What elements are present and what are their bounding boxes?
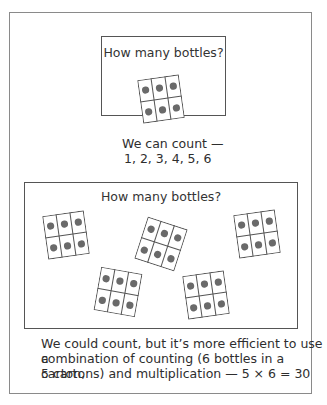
bottom-caption-line3: 5 cartons) and multiplication — 5 × 6 = … <box>41 366 310 381</box>
top-caption-line2: 1, 2, 3, 4, 5, 6 <box>124 151 211 166</box>
carton-top <box>137 74 185 123</box>
top-caption-line1: We can count — <box>122 136 223 151</box>
bottom-question-title: How many bottles? <box>25 189 297 204</box>
carton-1 <box>42 210 90 259</box>
carton-3 <box>233 209 281 258</box>
carton-4 <box>93 267 142 318</box>
top-question-title: How many bottles? <box>102 45 225 60</box>
carton-5 <box>182 270 230 319</box>
